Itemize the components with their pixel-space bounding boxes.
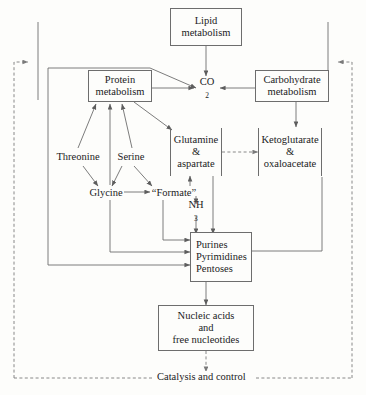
node-co2: CO2 <box>194 80 220 96</box>
node-purines-pyrimidines-pentoses: Purines Pyrimidines Pentoses <box>190 232 252 282</box>
ammonia-label: NH3 <box>188 199 203 224</box>
formate-label: “Formate” <box>152 187 196 199</box>
node-glutamine-aspartate: Glutamine & aspartate <box>170 128 222 176</box>
metabolism-pathway-diagram: Lipid metabolism Protein metabolism Carb… <box>0 0 366 395</box>
ketoglutarate-line-2: & <box>286 146 294 158</box>
carbohydrate-line-2: metabolism <box>268 86 317 98</box>
nucleic-line-2: and <box>198 322 213 334</box>
node-nucleic-acids: Nucleic acids and free nucleotides <box>158 305 254 351</box>
protein-line-2: metabolism <box>96 86 145 98</box>
glutamine-line-3: aspartate <box>177 158 214 170</box>
carbohydrate-line-1: Carbohydrate <box>263 74 320 86</box>
node-lipid-metabolism: Lipid metabolism <box>170 8 242 46</box>
glutamine-line-1: Glutamine <box>174 134 218 146</box>
pentoses-label: Pentoses <box>196 263 233 275</box>
threonine-label: Threonine <box>56 151 99 163</box>
nucleic-line-1: Nucleic acids <box>178 310 235 322</box>
node-serine: Serine <box>112 149 150 165</box>
node-protein-metabolism: Protein metabolism <box>88 70 152 102</box>
node-ammonia: NH3 <box>182 204 210 218</box>
node-carbohydrate-metabolism: Carbohydrate metabolism <box>255 70 329 102</box>
protein-line-1: Protein <box>105 74 135 86</box>
lipid-line-2: metabolism <box>182 27 231 39</box>
node-glycine: Glycine <box>86 185 126 201</box>
ketoglutarate-line-1: Ketoglutarate <box>261 134 318 146</box>
glutamine-line-2: & <box>192 146 200 158</box>
lipid-line-1: Lipid <box>195 15 218 27</box>
co2-label: CO2 <box>200 76 215 101</box>
serine-label: Serine <box>118 151 145 163</box>
node-threonine: Threonine <box>52 149 104 165</box>
ketoglutarate-line-3: oxaloacetate <box>264 158 316 170</box>
feedback-loop-label: Catalysis and control <box>154 371 249 382</box>
nucleic-line-3: free nucleotides <box>173 334 240 346</box>
glycine-label: Glycine <box>89 187 122 199</box>
pyrimidines-label: Pyrimidines <box>196 251 247 263</box>
node-ketoglutarate-oxaloacetate: Ketoglutarate & oxaloacetate <box>258 128 322 176</box>
purines-label: Purines <box>196 239 228 251</box>
